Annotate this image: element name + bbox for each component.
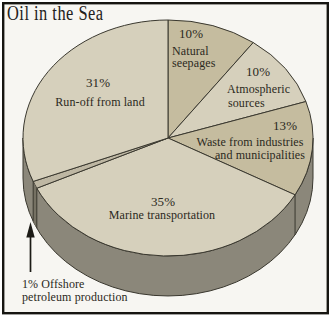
chart-figure: Oil in the Sea 31% Run-off from land 10%… [0, 0, 331, 320]
label-offshore-line2: petroleum production [22, 291, 128, 303]
label-natural-pct: 10% [179, 27, 203, 40]
label-waste-line1: Waste from industries [196, 136, 303, 148]
label-runoff-pct: 31% [86, 76, 110, 89]
label-natural-line2: seepages [172, 57, 215, 69]
label-runoff-name: Run-off from land [55, 96, 144, 108]
label-atmospheric-pct: 10% [246, 65, 270, 78]
label-marine-pct: 35% [151, 195, 175, 208]
label-waste-pct: 13% [273, 119, 297, 132]
label-atmospheric-line2: sources [228, 97, 265, 109]
label-waste-line2: and municipalities [215, 149, 305, 161]
label-offshore-line1: 1% Offshore [22, 278, 85, 290]
pie-side-offshore-strip [33, 181, 37, 228]
chart-title: Oil in the Sea [7, 2, 104, 25]
label-atmospheric-line1: Atmospheric [227, 83, 290, 95]
label-marine-name: Marine transportation [109, 209, 215, 221]
